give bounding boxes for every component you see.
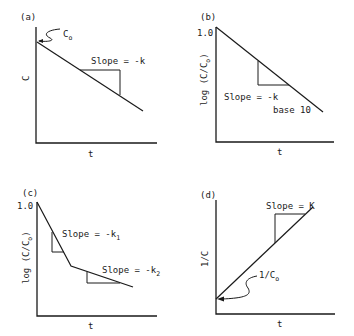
panel-b: (b) 1.0 Slope = -k base 10 t log (C/Co): [197, 12, 334, 157]
panel-c-title: (c): [22, 188, 38, 198]
panel-a-line: [37, 42, 143, 111]
panel-c-ylabel: log (C/Co): [21, 231, 34, 284]
panel-b-slope-label: Slope = -k: [224, 92, 279, 102]
panel-b-base-label: base 10: [273, 105, 311, 115]
panel-a-ylabel: C: [21, 76, 31, 81]
panel-c-axes: [37, 202, 157, 316]
panel-a-axes: [36, 27, 157, 143]
panel-d-intercept-label: 1/Co: [259, 270, 279, 283]
kinetics-figure: (a) Slope = -k Co t C (b) 1.0 Slope = -k…: [0, 0, 354, 336]
panel-d: (d) Slope = K 1/Co t 1/C: [200, 190, 335, 329]
panel-a-intercept-label: Co: [63, 29, 72, 42]
panel-b-ylabel: log (C/Co): [199, 53, 212, 106]
panel-b-ytick: 1.0: [197, 28, 213, 38]
panel-c-ytick: 1.0: [17, 201, 33, 211]
panel-c: (c) 1.0 Slope = -k1 Slope = -k2 t log (C…: [17, 188, 160, 331]
panel-d-slope-label: Slope = K: [266, 201, 315, 211]
panel-b-xlabel: t: [277, 147, 282, 157]
panel-d-line: [216, 207, 313, 299]
panel-a: (a) Slope = -k Co t C: [20, 12, 157, 159]
panel-d-ylabel: 1/C: [200, 251, 210, 267]
panel-c-slope2-label: Slope = -k2: [102, 265, 160, 278]
panel-c-slope1-label: Slope = -k1: [62, 229, 120, 242]
panel-b-title: (b): [200, 12, 216, 22]
panel-d-title: (d): [200, 190, 216, 200]
panel-d-xlabel: t: [277, 319, 282, 329]
panel-a-slope-label: Slope = -k: [91, 56, 146, 66]
panel-c-xlabel: t: [88, 321, 93, 331]
panel-a-title: (a): [20, 12, 36, 22]
panel-a-xlabel: t: [88, 149, 93, 159]
panel-a-arrowhead-icon: [38, 39, 43, 43]
panel-d-intercept-arrow: [222, 276, 257, 299]
kinetics-diagram: (a) Slope = -k Co t C (b) 1.0 Slope = -k…: [0, 0, 354, 336]
